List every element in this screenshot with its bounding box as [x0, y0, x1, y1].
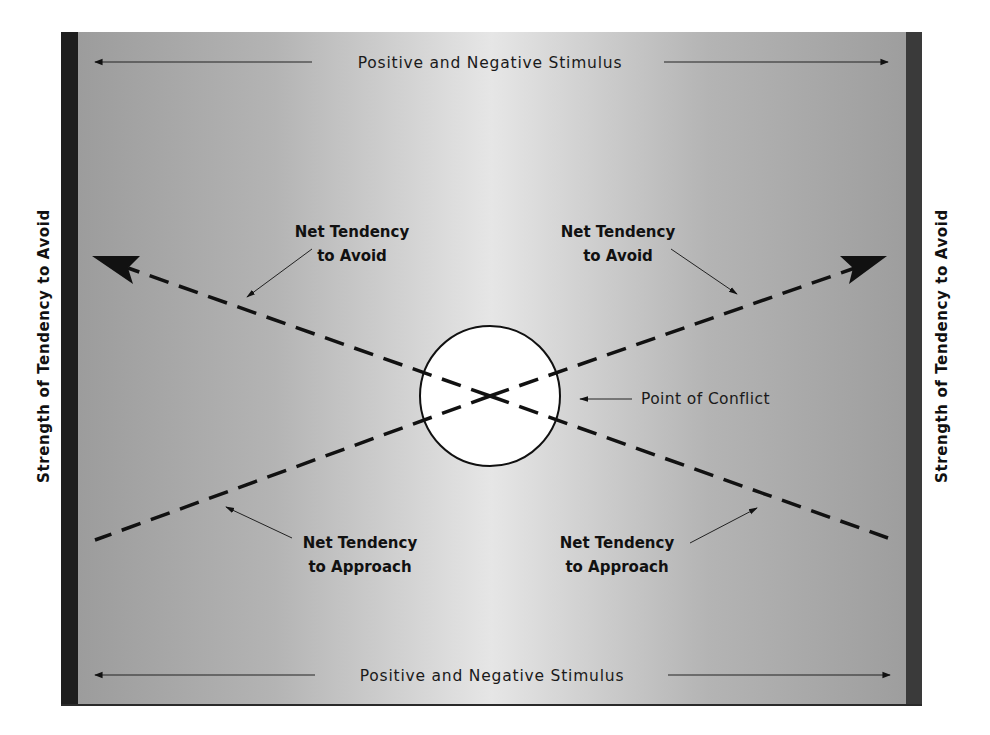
top-axis: Positive and Negative Stimulus	[95, 54, 888, 72]
approach-line-left	[95, 396, 490, 540]
approach-line-right	[490, 396, 888, 538]
label-bottom-left-line2: to Approach	[308, 558, 411, 576]
label-bottom-right-line2: to Approach	[565, 558, 668, 576]
label-top-left-line2: to Avoid	[317, 247, 387, 265]
bottom-axis-label: Positive and Negative Stimulus	[360, 667, 625, 685]
right-axis-label: Strength of Tendency to Avoid	[933, 223, 951, 483]
label-bottom-left-line1: Net Tendency	[303, 534, 418, 552]
label-top-right-line1: Net Tendency	[561, 223, 676, 241]
bottom-axis: Positive and Negative Stimulus	[95, 667, 890, 685]
label-top-left-line1: Net Tendency	[295, 223, 410, 241]
top-axis-label: Positive and Negative Stimulus	[358, 54, 623, 72]
left-axis-label: Strength of Tendency to Avoid	[35, 223, 53, 483]
point-of-conflict-label: Point of Conflict	[641, 390, 770, 408]
pointer-top-left	[247, 249, 312, 297]
diagram-canvas: Positive and Negative Stimulus Positive …	[0, 0, 990, 735]
pointer-bottom-left	[226, 507, 292, 538]
label-top-right-line2: to Avoid	[583, 247, 653, 265]
pointer-bottom-right	[690, 508, 757, 543]
pointer-top-right	[671, 249, 737, 294]
label-bottom-right-line1: Net Tendency	[560, 534, 675, 552]
